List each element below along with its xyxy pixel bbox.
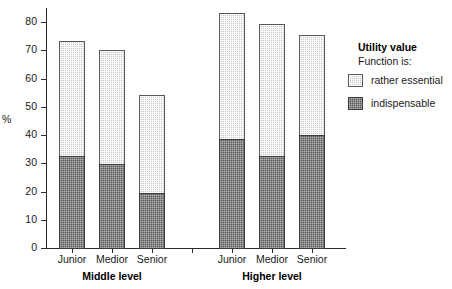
y-tick: 40	[41, 135, 46, 136]
bar-segment-indispensable	[299, 135, 325, 249]
legend-entry-label: indispensable	[371, 97, 435, 110]
bar-segment-indispensable	[99, 164, 125, 249]
y-tick: 60	[41, 79, 46, 80]
y-tick: 30	[41, 163, 46, 164]
bar-segment-indispensable	[259, 156, 285, 249]
y-tick-label: 50	[25, 100, 37, 113]
x-group-label: Middle level	[52, 270, 172, 283]
stacked-bar	[259, 24, 285, 248]
y-tick-label: 70	[25, 43, 37, 56]
y-tick: 80	[41, 22, 46, 23]
y-tick-label: 60	[25, 72, 37, 85]
x-category-label: Senior	[122, 253, 182, 266]
bar-segment-rather-essential	[219, 13, 245, 140]
bar-chart: % 01020304050607080 JuniorMediorSeniorJu…	[0, 0, 452, 289]
stacked-bar	[299, 35, 325, 248]
plot-area: 01020304050607080	[46, 8, 346, 248]
legend-title: Utility value	[358, 40, 452, 54]
legend-subtitle: Function is:	[358, 54, 452, 68]
y-axis-line	[46, 8, 47, 248]
x-tick-group-separator	[192, 248, 193, 253]
legend-entries: rather essentialindispensable	[358, 74, 452, 110]
y-tick-label: 40	[25, 128, 37, 141]
legend-entry: rather essential	[358, 74, 452, 87]
y-tick-label: 10	[25, 213, 37, 226]
y-tick: 70	[41, 50, 46, 51]
y-tick: 0	[41, 248, 46, 249]
y-tick-label: 30	[25, 156, 37, 169]
bar-segment-rather-essential	[99, 50, 125, 166]
legend-swatch-icon	[348, 97, 363, 110]
stacked-bar	[59, 41, 85, 248]
y-tick-label: 20	[25, 185, 37, 198]
legend-entry: indispensable	[358, 97, 452, 110]
legend-entry-label: rather essential	[371, 74, 443, 87]
y-tick: 50	[41, 107, 46, 108]
bar-segment-indispensable	[219, 139, 245, 249]
bar-segment-rather-essential	[299, 35, 325, 135]
bar-segment-rather-essential	[139, 95, 165, 194]
bar-segment-indispensable	[59, 156, 85, 249]
legend: Utility value Function is: rather essent…	[358, 40, 452, 120]
y-tick: 10	[41, 220, 46, 221]
bar-segment-rather-essential	[59, 41, 85, 157]
y-axis-title: %	[2, 113, 11, 125]
x-category-label: Senior	[282, 253, 342, 266]
y-tick: 20	[41, 192, 46, 193]
legend-swatch-icon	[348, 74, 363, 87]
x-group-label: Higher level	[212, 270, 332, 283]
bar-segment-rather-essential	[259, 24, 285, 157]
y-tick-label: 80	[25, 15, 37, 28]
bar-segment-indispensable	[139, 193, 165, 249]
stacked-bar	[219, 13, 245, 248]
stacked-bar	[139, 95, 165, 248]
stacked-bar	[99, 50, 125, 248]
y-tick-label: 0	[31, 241, 37, 254]
